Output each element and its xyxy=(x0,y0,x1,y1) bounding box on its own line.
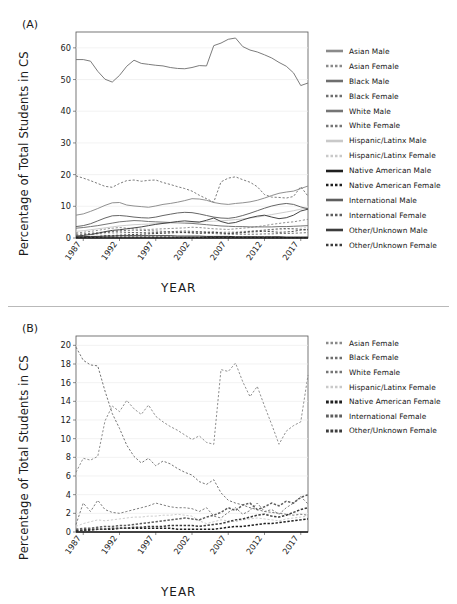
legend-item[interactable]: White Female xyxy=(326,118,441,133)
legend-swatch-icon xyxy=(326,136,343,146)
legend-item[interactable]: Hispanic/Latinx Female xyxy=(326,148,441,163)
legend-swatch-icon xyxy=(326,166,343,176)
legend-item[interactable]: Black Female xyxy=(326,89,441,104)
svg-text:1992: 1992 xyxy=(99,533,119,556)
svg-text:50: 50 xyxy=(61,75,71,85)
svg-text:12: 12 xyxy=(61,415,71,425)
svg-text:4: 4 xyxy=(66,490,71,500)
legend-label: Hispanic/Latinx Female xyxy=(349,383,436,392)
svg-text:20: 20 xyxy=(61,170,71,180)
legend-swatch-icon xyxy=(326,91,343,101)
legend-swatch-icon xyxy=(326,426,343,436)
legend-item[interactable]: Hispanic/Latinx Female xyxy=(326,380,441,395)
legend-label: International Female xyxy=(349,211,426,220)
svg-text:30: 30 xyxy=(61,138,71,148)
legend-label: Asian Female xyxy=(349,339,399,348)
legend-item[interactable]: Asian Male xyxy=(326,44,441,59)
svg-text:16: 16 xyxy=(61,378,71,388)
legend-swatch-icon xyxy=(326,61,343,71)
svg-text:60: 60 xyxy=(61,43,71,53)
legend-item[interactable]: Other/Unknown Female xyxy=(326,238,441,253)
legend-swatch-icon xyxy=(326,397,343,407)
legend-label: Other/Unknown Female xyxy=(349,426,437,435)
panel-b-x-axis-label: YEAR xyxy=(161,585,196,599)
legend-item[interactable]: Black Female xyxy=(326,351,441,366)
panel-a-y-axis-label: Percentage of Total Students in CS xyxy=(17,51,31,256)
legend-swatch-icon xyxy=(326,411,343,421)
legend-swatch-icon xyxy=(326,151,343,161)
legend-item[interactable]: Native American Female xyxy=(326,178,441,193)
legend-label: Other/Unknown Female xyxy=(349,241,437,250)
svg-text:2002: 2002 xyxy=(171,239,191,262)
svg-text:0: 0 xyxy=(66,527,71,537)
legend-swatch-icon xyxy=(326,338,343,348)
svg-text:10: 10 xyxy=(61,201,71,211)
svg-text:2: 2 xyxy=(66,508,71,518)
panel-a-plot-area: 0102030405060198719921997200220072012201… xyxy=(52,28,314,273)
panel-a-legend: Asian MaleAsian FemaleBlack MaleBlack Fe… xyxy=(326,44,441,252)
legend-item[interactable]: Native American Male xyxy=(326,163,441,178)
svg-text:2002: 2002 xyxy=(171,533,191,556)
svg-text:40: 40 xyxy=(61,106,71,116)
legend-label: Native American Female xyxy=(349,397,441,406)
panel-b-legend: Asian FemaleBlack FemaleWhite FemaleHisp… xyxy=(326,336,441,438)
legend-label: Hispanic/Latinx Female xyxy=(349,151,436,160)
legend-swatch-icon xyxy=(326,195,343,205)
svg-text:1992: 1992 xyxy=(99,239,119,262)
legend-swatch-icon xyxy=(326,382,343,392)
svg-text:20: 20 xyxy=(61,340,71,350)
legend-item[interactable]: Asian Female xyxy=(326,336,441,351)
figure-page: (A) Percentage of Total Students in CS Y… xyxy=(0,0,457,604)
svg-text:2017: 2017 xyxy=(280,533,300,556)
legend-item[interactable]: Hispanic/Latinx Male xyxy=(326,133,441,148)
legend-item[interactable]: Native American Female xyxy=(326,394,441,409)
legend-label: Asian Female xyxy=(349,62,399,71)
svg-text:0: 0 xyxy=(66,233,71,243)
panel-a-label: (A) xyxy=(22,18,38,31)
legend-label: Black Female xyxy=(349,92,399,101)
legend-label: White Male xyxy=(349,107,391,116)
legend-label: International Female xyxy=(349,412,426,421)
svg-text:2017: 2017 xyxy=(280,239,300,262)
legend-label: White Female xyxy=(349,121,400,130)
svg-text:2012: 2012 xyxy=(244,533,264,556)
legend-item[interactable]: International Female xyxy=(326,409,441,424)
legend-swatch-icon xyxy=(326,121,343,131)
legend-swatch-icon xyxy=(326,106,343,116)
legend-item[interactable]: Other/Unknown Male xyxy=(326,223,441,238)
panel-b-plot-area: 0246810121416182019871992199720022007201… xyxy=(52,332,314,564)
legend-label: Hispanic/Latinx Male xyxy=(349,136,426,145)
legend-label: International Male xyxy=(349,196,417,205)
svg-text:6: 6 xyxy=(66,471,71,481)
svg-text:2007: 2007 xyxy=(208,533,228,556)
legend-swatch-icon xyxy=(326,353,343,363)
svg-text:14: 14 xyxy=(61,396,71,406)
legend-label: Black Female xyxy=(349,353,399,362)
legend-item[interactable]: Black Male xyxy=(326,74,441,89)
legend-label: Native American Male xyxy=(349,166,431,175)
legend-label: Black Male xyxy=(349,77,389,86)
legend-label: Native American Female xyxy=(349,181,441,190)
svg-text:2007: 2007 xyxy=(208,239,228,262)
legend-swatch-icon xyxy=(326,180,343,190)
legend-swatch-icon xyxy=(326,240,343,250)
svg-text:8: 8 xyxy=(66,452,71,462)
panel-b-label: (B) xyxy=(22,322,38,335)
legend-item[interactable]: International Male xyxy=(326,193,441,208)
panel-b-y-axis-label: Percentage of Total Students in CS xyxy=(17,355,31,560)
legend-item[interactable]: White Female xyxy=(326,365,441,380)
svg-text:10: 10 xyxy=(61,434,71,444)
legend-swatch-icon xyxy=(326,210,343,220)
legend-swatch-icon xyxy=(326,46,343,56)
panel-a-x-axis-label: YEAR xyxy=(161,281,196,295)
legend-label: White Female xyxy=(349,368,400,377)
svg-text:1997: 1997 xyxy=(135,239,155,262)
legend-item[interactable]: Other/Unknown Female xyxy=(326,424,441,439)
svg-text:1997: 1997 xyxy=(135,533,155,556)
legend-item[interactable]: International Female xyxy=(326,208,441,223)
legend-label: Other/Unknown Male xyxy=(349,226,428,235)
svg-text:2012: 2012 xyxy=(244,239,264,262)
legend-item[interactable]: White Male xyxy=(326,104,441,119)
legend-item[interactable]: Asian Female xyxy=(326,59,441,74)
legend-swatch-icon xyxy=(326,76,343,86)
